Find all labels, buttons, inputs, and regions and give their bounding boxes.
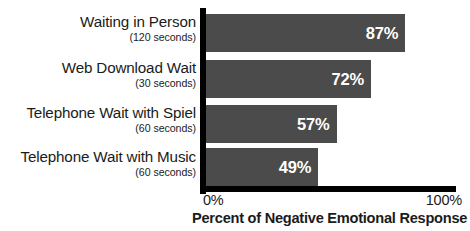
x-tick-100: 100% <box>415 193 462 208</box>
bar-web-download-wait: 72% <box>206 60 371 98</box>
bar-chart: Waiting in Person (120 seconds) Web Down… <box>0 0 470 231</box>
category-label-waiting-in-person: Waiting in Person (120 seconds) <box>0 14 196 43</box>
x-axis-line <box>200 186 456 192</box>
category-label-telephone-wait-with-spiel: Telephone Wait with Spiel (60 seconds) <box>0 105 196 134</box>
category-name: Web Download Wait <box>0 60 196 75</box>
category-subtitle: (60 seconds) <box>0 167 196 178</box>
bar-telephone-wait-with-music: 49% <box>206 148 318 186</box>
bar-value-label: 49% <box>279 159 311 176</box>
category-name: Waiting in Person <box>0 14 196 29</box>
bar-value-label: 57% <box>297 116 329 133</box>
bar-waiting-in-person: 87% <box>206 14 405 52</box>
category-label-column: Waiting in Person (120 seconds) Web Down… <box>0 0 196 188</box>
category-label-telephone-wait-with-music: Telephone Wait with Music (60 seconds) <box>0 149 196 178</box>
category-name: Telephone Wait with Spiel <box>0 105 196 120</box>
bar-telephone-wait-with-spiel: 57% <box>206 105 337 143</box>
bar-value-label: 87% <box>366 25 398 42</box>
category-subtitle: (120 seconds) <box>0 32 196 43</box>
category-subtitle: (30 seconds) <box>0 78 196 89</box>
bar-value-label: 72% <box>331 71 363 88</box>
x-axis-title: Percent of Negative Emotional Response <box>192 211 470 226</box>
category-subtitle: (60 seconds) <box>0 123 196 134</box>
category-name: Telephone Wait with Music <box>0 149 196 164</box>
category-label-web-download-wait: Web Download Wait (30 seconds) <box>0 60 196 89</box>
x-tick-0: 0% <box>203 193 224 208</box>
